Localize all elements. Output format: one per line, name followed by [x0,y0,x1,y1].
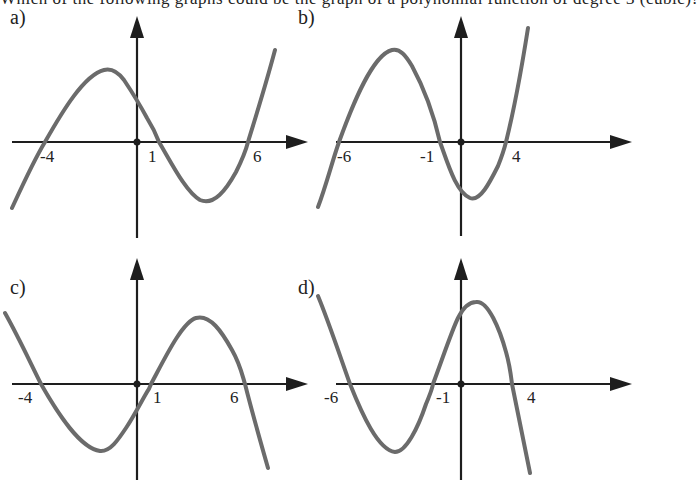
x-axis-arrow-icon [610,377,632,391]
panel-d-label: d) [298,276,315,299]
tick-label-minus-4: -4 [18,388,33,407]
x-axis-arrow-icon [286,377,308,391]
panel-b-label: b) [298,6,315,29]
origin-point [458,381,465,388]
y-axis-arrow-icon [130,16,144,38]
x-axis-arrow-icon [610,135,632,149]
tick-label-minus-4: -4 [40,147,55,166]
tick-label-4: 4 [527,388,536,407]
tick-label-1: 1 [153,388,162,407]
origin-point [134,381,141,388]
tick-label-6: 6 [230,388,239,407]
tick-label-4: 4 [512,147,521,166]
panel-c-label: c) [10,276,26,299]
origin-point [134,139,141,146]
origin-point [458,139,465,146]
tick-label-minus-1: -1 [436,388,450,407]
y-axis-arrow-icon [454,258,468,280]
y-axis-arrow-icon [130,258,144,280]
panel-b: b) -6 -1 4 [298,6,632,236]
x-axis-arrow-icon [286,135,308,149]
tick-label-minus-6: -6 [337,147,351,166]
tick-label-minus-1: -1 [420,147,434,166]
panel-a: a) -4 1 6 [10,6,308,238]
tick-label-6: 6 [253,147,262,166]
panel-c: c) -4 1 6 [5,258,308,480]
y-axis-arrow-icon [454,16,468,38]
cubic-curve [12,50,275,208]
panel-a-label: a) [10,6,26,29]
panel-d: d) -6 -1 4 [298,258,632,480]
tick-label-1: 1 [148,147,157,166]
cubic-curve [318,28,528,207]
tick-label-minus-6: -6 [324,388,338,407]
